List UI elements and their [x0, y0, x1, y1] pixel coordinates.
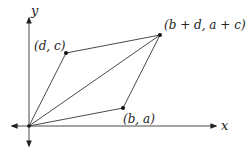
label-point-dc: (d, c)	[34, 39, 66, 53]
edge-dc-to-sum	[66, 35, 160, 53]
edge-ba-to-sum	[123, 35, 160, 108]
edge-origin-to-ba	[29, 108, 123, 126]
point-origin	[27, 124, 31, 128]
edge-origin-to-dc	[29, 53, 66, 126]
point-sum	[158, 33, 162, 37]
y-axis-label: y	[30, 3, 39, 18]
label-point-sum: (b + d, a + c)	[164, 18, 246, 32]
label-point-ba: (b, a)	[123, 112, 155, 126]
parallelogram-diagram: y x (d, c) (b, a) (b + d, a + c)	[0, 0, 248, 156]
point-ba	[121, 106, 125, 110]
x-axis-label: x	[221, 118, 229, 133]
diagram-svg: y x (d, c) (b, a) (b + d, a + c)	[0, 0, 248, 156]
